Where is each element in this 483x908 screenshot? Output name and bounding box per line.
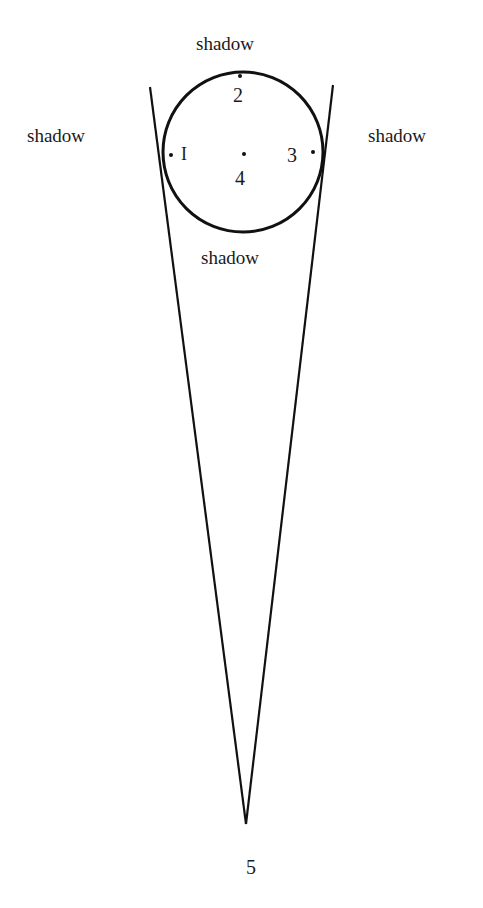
cone-right-line: [246, 85, 333, 824]
point-2-dot: [238, 74, 242, 78]
shadow-label-bottom: shadow: [201, 248, 259, 267]
shadow-label-top: shadow: [196, 34, 254, 53]
shadow-label-left: shadow: [27, 126, 85, 145]
point-1-dot: [169, 153, 173, 157]
point-2-label: 2: [233, 85, 243, 105]
point-5-label: 5: [246, 857, 256, 877]
shadow-label-right: shadow: [368, 126, 426, 145]
cone-left-line: [150, 87, 246, 824]
point-3-dot: [311, 150, 315, 154]
point-3-label: 3: [287, 145, 297, 165]
point-1-label: I: [181, 145, 187, 163]
point-4-label: 4: [235, 168, 245, 188]
body-circle: [163, 72, 323, 232]
point-4-dot: [242, 152, 246, 156]
